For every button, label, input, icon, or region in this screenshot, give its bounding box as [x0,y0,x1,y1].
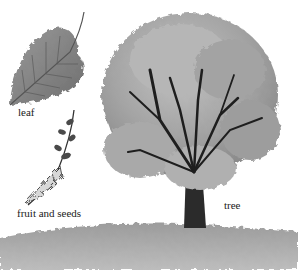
tree-illustration [102,13,280,228]
label-leaf: leaf [18,106,34,118]
label-tree: tree [224,199,240,211]
label-fruit-and-seeds: fruit and seeds [17,207,81,219]
leaf-illustration [10,12,84,105]
illustration [0,0,298,270]
ground [0,224,298,270]
fruit-illustration [24,110,77,205]
